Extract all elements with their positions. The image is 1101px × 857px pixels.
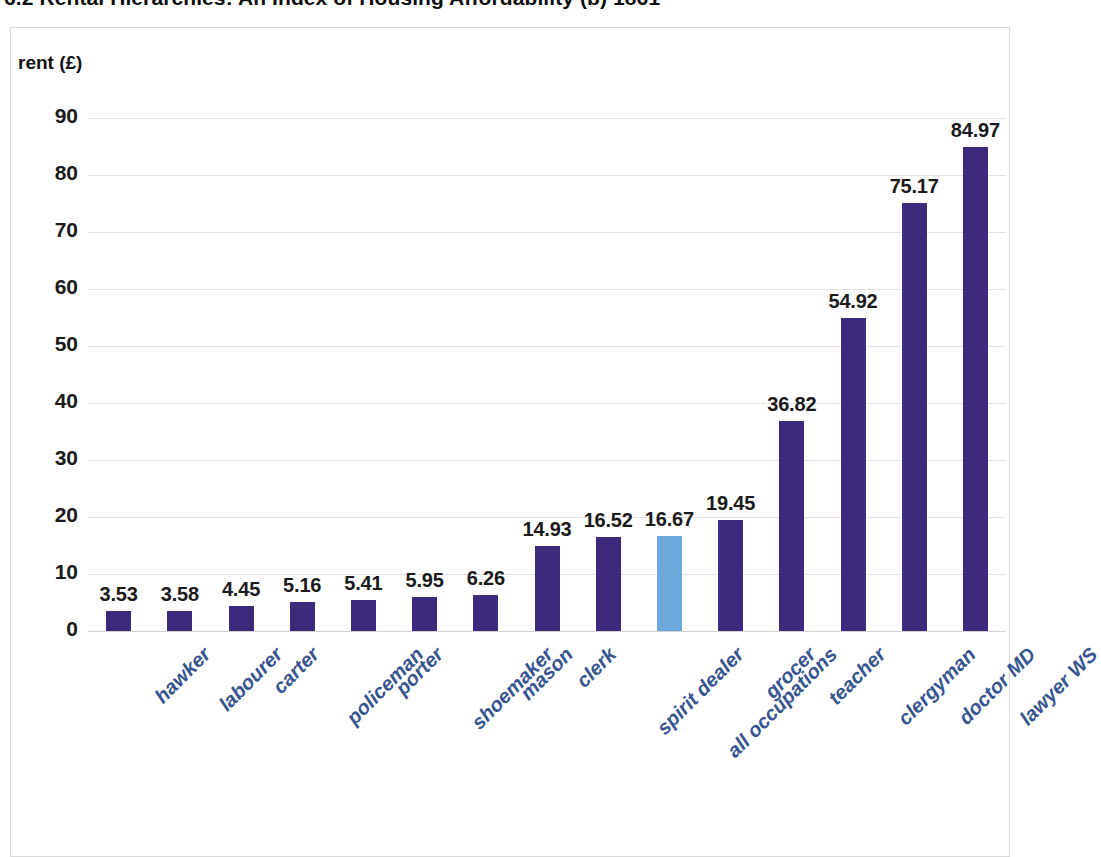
bar: 19.45 xyxy=(718,520,743,631)
y-axis-tick-label: 80 xyxy=(22,161,78,185)
y-axis-tick-label: 60 xyxy=(22,275,78,299)
bar-value-label: 75.17 xyxy=(890,175,939,198)
bar: 16.67 xyxy=(657,536,682,631)
bar: 16.52 xyxy=(596,537,621,631)
bar-value-label: 5.41 xyxy=(344,572,382,595)
y-axis-tick-label: 50 xyxy=(22,332,78,356)
bar-value-label: 3.53 xyxy=(100,583,138,606)
bar-value-label: 84.97 xyxy=(951,119,1000,142)
bar: 14.93 xyxy=(535,546,560,631)
bar-value-label: 5.95 xyxy=(406,569,444,592)
bar: 75.17 xyxy=(902,203,927,631)
bar: 5.41 xyxy=(351,600,376,631)
bar: 6.26 xyxy=(473,595,498,631)
y-axis-tick-label: 30 xyxy=(22,446,78,470)
bar: 36.82 xyxy=(779,421,804,631)
gridline xyxy=(88,346,1006,347)
bar: 3.58 xyxy=(167,611,192,631)
bar: 5.16 xyxy=(290,602,315,631)
chart-title: 6.2 Rental Hierarchies: An Index of Hous… xyxy=(4,0,660,10)
bar: 3.53 xyxy=(106,611,131,631)
bar-value-label: 16.52 xyxy=(584,509,633,532)
chart-title-region: 6.2 Rental Hierarchies: An Index of Hous… xyxy=(0,0,1024,13)
bar-value-label: 3.58 xyxy=(161,583,199,606)
gridline xyxy=(88,175,1006,176)
gridline xyxy=(88,118,1006,119)
bar-value-label: 36.82 xyxy=(767,393,816,416)
gridline xyxy=(88,631,1006,632)
plot-area: 0102030405060708090 3.533.584.455.165.41… xyxy=(88,118,1006,631)
bar-value-label: 19.45 xyxy=(706,492,755,515)
bar: 54.92 xyxy=(841,318,866,631)
gridline xyxy=(88,232,1006,233)
y-axis-title: rent (£) xyxy=(18,52,82,74)
y-axis-tick-label: 20 xyxy=(22,503,78,527)
bar-value-label: 5.16 xyxy=(283,574,321,597)
y-axis-tick-label: 40 xyxy=(22,389,78,413)
y-axis-tick-label: 0 xyxy=(22,617,78,641)
bar-value-label: 6.26 xyxy=(467,567,505,590)
bar: 4.45 xyxy=(229,606,254,631)
bar: 5.95 xyxy=(412,597,437,631)
bar-value-label: 14.93 xyxy=(522,518,571,541)
gridline xyxy=(88,403,1006,404)
bar-value-label: 4.45 xyxy=(222,578,260,601)
gridline xyxy=(88,460,1006,461)
bar-value-label: 16.67 xyxy=(645,508,694,531)
y-axis-tick-label: 10 xyxy=(22,560,78,584)
bar: 84.97 xyxy=(963,147,988,631)
y-axis-tick-label: 70 xyxy=(22,218,78,242)
y-axis-tick-label: 90 xyxy=(22,104,78,128)
bar-value-label: 54.92 xyxy=(828,290,877,313)
